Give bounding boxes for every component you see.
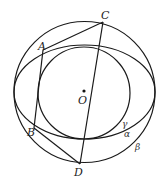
label-o: O — [78, 94, 87, 107]
label-beta: β — [134, 142, 140, 152]
label-alpha: α — [124, 129, 130, 139]
label-a: A — [37, 40, 46, 53]
inner-circle-gamma — [38, 47, 130, 139]
label-gamma: γ — [122, 119, 128, 129]
label-b: B — [26, 126, 35, 139]
label-c: C — [101, 9, 110, 22]
segment-ab — [34, 50, 43, 128]
label-d: D — [73, 166, 83, 179]
geometry-diagram: A B C D O γ α β — [0, 0, 166, 184]
segment-cd — [80, 22, 103, 164]
segment-bd — [34, 128, 80, 164]
center-point-o — [82, 89, 85, 92]
